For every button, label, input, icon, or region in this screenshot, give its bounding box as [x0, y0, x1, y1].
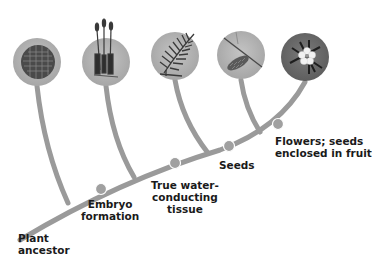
branches [20, 80, 305, 240]
taxon-1 [13, 38, 61, 86]
branch-4 [241, 80, 260, 132]
taxon-4 [217, 31, 265, 79]
trunk [20, 82, 305, 240]
taxon-2 [82, 19, 130, 86]
trait-label-seeds: Seeds [219, 159, 255, 171]
trait-label-flowers: Flowers; seeds enclosed in fruit [275, 135, 372, 159]
node-seeds [224, 141, 235, 152]
moss-mat-icon [21, 45, 55, 79]
branch-1 [37, 86, 68, 203]
taxon-5 [281, 33, 329, 81]
branch-3 [175, 80, 208, 153]
trait-label-embryo: Embryo formation [81, 198, 139, 222]
node-flowers [273, 119, 284, 130]
root-label: Plant ancestor [18, 232, 70, 256]
node-embryo [96, 184, 107, 195]
trait-label-vascular: True water- conducting tissue [151, 179, 219, 215]
branch-2 [106, 86, 134, 177]
cladogram-diagram [0, 0, 372, 258]
node-vascular [170, 158, 181, 169]
taxon-3 [151, 32, 199, 80]
